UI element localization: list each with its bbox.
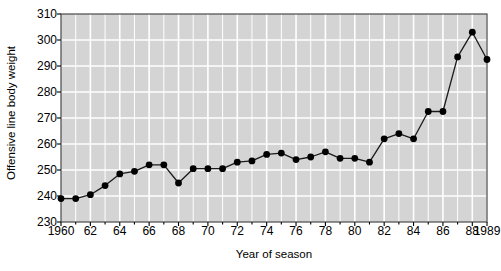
data-point-marker	[410, 135, 417, 142]
data-point-marker	[484, 56, 491, 63]
data-point-marker	[131, 168, 138, 175]
data-point-marker	[381, 135, 388, 142]
data-point-marker	[395, 130, 402, 137]
x-tick-marks	[61, 222, 487, 226]
x-axis-title: Year of season	[61, 248, 487, 260]
data-point-marker	[307, 154, 314, 161]
data-point-marker	[102, 182, 109, 189]
data-point-marker	[454, 54, 461, 61]
chart-figure: Offensive line body weight 2302402502602…	[0, 0, 501, 271]
plot-area	[0, 0, 501, 271]
x-axis-title-text: Year of season	[236, 248, 312, 260]
data-point-marker	[116, 171, 123, 178]
data-point-marker	[337, 155, 344, 162]
data-point-marker	[440, 108, 447, 115]
data-point-marker	[160, 161, 167, 168]
data-point-marker	[322, 148, 329, 155]
data-point-marker	[469, 29, 476, 36]
data-point-marker	[190, 165, 197, 172]
data-point-marker	[72, 195, 79, 202]
data-point-marker	[204, 165, 211, 172]
data-point-marker	[87, 191, 94, 198]
data-point-marker	[146, 161, 153, 168]
data-point-marker	[58, 195, 65, 202]
data-point-marker	[219, 165, 226, 172]
data-point-marker	[278, 150, 285, 157]
data-point-marker	[351, 155, 358, 162]
data-point-marker	[234, 159, 241, 166]
data-point-marker	[249, 158, 256, 165]
data-point-marker	[425, 108, 432, 115]
data-point-marker	[293, 156, 300, 163]
data-point-marker	[175, 180, 182, 187]
data-point-marker	[366, 159, 373, 166]
data-point-marker	[263, 151, 270, 158]
